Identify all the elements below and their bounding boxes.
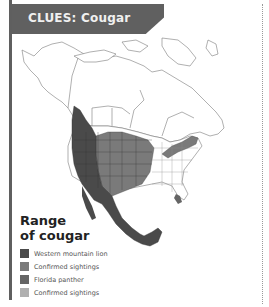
legend-item-western-mountain-lion: Western mountain lion xyxy=(20,247,108,260)
dotted-divider xyxy=(262,4,263,304)
legend-swatch xyxy=(20,262,29,271)
legend-item-florida-panther: Florida panther xyxy=(20,273,108,286)
legend-title: Range of cougar xyxy=(20,213,100,243)
legend-title-line2: of cougar xyxy=(20,228,100,243)
title-banner: CLUES: Cougar xyxy=(12,4,164,34)
legend-title-line1: Range xyxy=(20,213,100,228)
legend-item-confirmed-sightings-east: Confirmed sightings xyxy=(20,286,108,299)
legend-swatch xyxy=(20,275,29,284)
legend-swatch xyxy=(20,249,29,258)
legend-swatch xyxy=(20,288,29,297)
clues-card: CLUES: Cougar xyxy=(9,0,227,300)
map-legend: Range of cougar Western mountain lion Co… xyxy=(20,213,108,299)
card-title: CLUES: Cougar xyxy=(28,11,130,25)
legend-item-confirmed-sightings-west: Confirmed sightings xyxy=(20,260,108,273)
